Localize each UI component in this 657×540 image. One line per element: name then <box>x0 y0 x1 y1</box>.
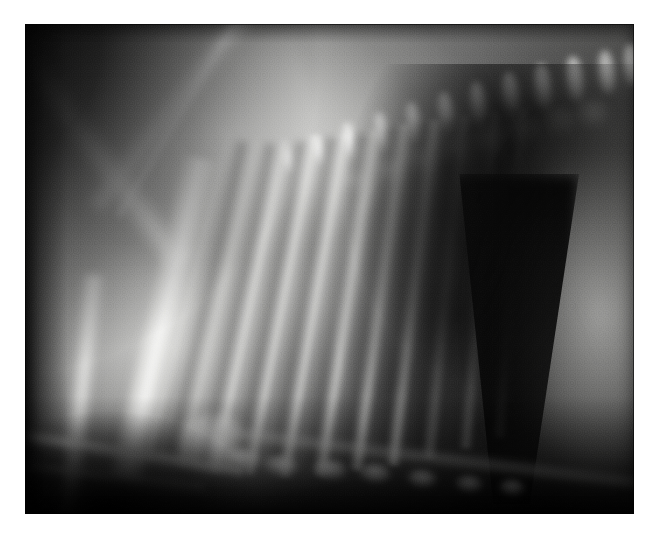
radiograph-film-plate[interactable] <box>25 24 634 514</box>
film-grain-fine <box>25 24 634 514</box>
radiograph-viewer <box>0 0 657 540</box>
